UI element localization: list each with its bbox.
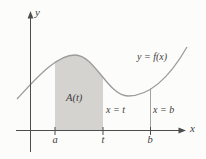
curve-equation-label: y = f(x) xyxy=(137,52,167,62)
y-axis-label: y xyxy=(35,7,40,18)
x-axis-arrow-icon xyxy=(179,128,187,134)
tick-label-b: b xyxy=(147,135,152,146)
line-t-label: x = t xyxy=(106,105,125,115)
calculus-area-under-curve-figure: y x y = f(x) A(t) x = t x = b a t b xyxy=(0,0,206,159)
tick-label-a: a xyxy=(52,135,57,146)
y-axis-arrow-icon xyxy=(28,11,34,19)
tick-label-t: t xyxy=(102,135,105,146)
x-axis-label: x xyxy=(190,123,195,134)
area-function-label: A(t) xyxy=(66,93,82,104)
line-b-label: x = b xyxy=(153,105,174,115)
